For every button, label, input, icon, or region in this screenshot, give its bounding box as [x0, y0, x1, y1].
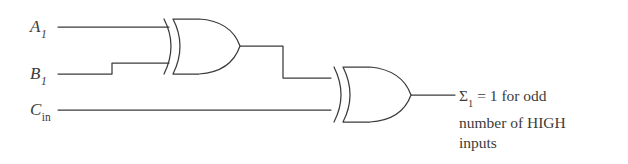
input-label-a1-base: A: [30, 17, 40, 36]
input-label-a1-subscript: 1: [41, 28, 47, 40]
output-equation-rest: = 1 for odd: [473, 87, 546, 104]
input-label-b1-subscript: 1: [41, 75, 47, 87]
wire-b1: [58, 63, 169, 74]
input-label-cin-base: C: [30, 100, 41, 119]
xor-gate-2-arc: [334, 67, 341, 122]
output-annotation: Σ1 = 1 for odd number of HIGH inputs: [459, 86, 624, 154]
input-label-a1: A1: [30, 18, 46, 39]
xor-gate-2-body: [343, 67, 411, 122]
sigma-symbol: Σ: [459, 87, 468, 104]
output-equation-line: Σ1 = 1 for odd: [459, 86, 624, 113]
input-label-b1-base: B: [30, 64, 40, 83]
output-note-line-2: number of HIGH: [459, 113, 624, 134]
xor-gate-1-body: [173, 19, 240, 74]
sigma-subscript: 1: [468, 98, 473, 109]
logic-circuit-figure: A1 B1 Cin Σ1 = 1 for odd number of HIGH …: [0, 0, 628, 164]
wire-xor1-to-xor2: [240, 46, 331, 78]
output-note-line-3: inputs: [459, 133, 624, 154]
input-label-cin-subscript: in: [42, 111, 51, 123]
input-label-cin: Cin: [30, 101, 50, 122]
input-label-b1: B1: [30, 65, 46, 86]
